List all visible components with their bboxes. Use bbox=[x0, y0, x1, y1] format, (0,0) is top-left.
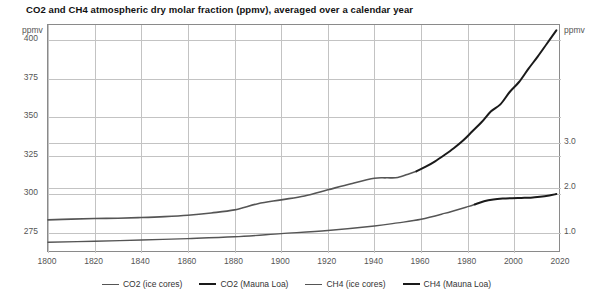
series-line-0 bbox=[48, 171, 416, 220]
right-tick-1.0: 1.0 bbox=[564, 226, 593, 236]
data-series-layer bbox=[48, 25, 561, 253]
legend-swatch-icon bbox=[403, 283, 420, 285]
legend-item-3[interactable]: CH4 (Mauna Loa) bbox=[403, 279, 492, 289]
legend-item-2[interactable]: CH4 (ice cores) bbox=[305, 279, 385, 289]
series-line-2 bbox=[48, 204, 475, 242]
series-line-1 bbox=[416, 30, 556, 171]
plot-area bbox=[47, 24, 560, 252]
chart-figure: CO2 and CH4 atmospheric dry molar fracti… bbox=[0, 0, 593, 294]
left-tick-400: 400 bbox=[4, 33, 38, 43]
left-tick-275: 275 bbox=[4, 226, 38, 236]
left-tick-375: 375 bbox=[4, 72, 38, 82]
x-tick-1920: 1920 bbox=[307, 256, 347, 266]
x-tick-2000: 2000 bbox=[493, 256, 533, 266]
chart-title: CO2 and CH4 atmospheric dry molar fracti… bbox=[26, 4, 413, 15]
x-tick-1880: 1880 bbox=[214, 256, 254, 266]
x-tick-1820: 1820 bbox=[74, 256, 114, 266]
legend-label: CH4 (ice cores) bbox=[326, 279, 385, 289]
left-tick-325: 325 bbox=[4, 149, 38, 159]
x-tick-1980: 1980 bbox=[447, 256, 487, 266]
left-tick-350: 350 bbox=[4, 110, 38, 120]
x-tick-1940: 1940 bbox=[353, 256, 393, 266]
legend-item-0[interactable]: CO2 (ice cores) bbox=[102, 279, 183, 289]
x-tick-1900: 1900 bbox=[260, 256, 300, 266]
legend-label: CH4 (Mauna Loa) bbox=[424, 279, 492, 289]
x-tick-1960: 1960 bbox=[400, 256, 440, 266]
right-axis-unit-label: ppmv bbox=[564, 25, 585, 35]
x-tick-1860: 1860 bbox=[167, 256, 207, 266]
left-tick-300: 300 bbox=[4, 187, 38, 197]
right-tick-3.0: 3.0 bbox=[564, 136, 593, 146]
right-tick-2.0: 2.0 bbox=[564, 181, 593, 191]
legend-swatch-icon bbox=[102, 284, 119, 285]
x-tick-2020: 2020 bbox=[540, 256, 580, 266]
legend-swatch-icon bbox=[199, 283, 216, 285]
x-tick-1840: 1840 bbox=[120, 256, 160, 266]
legend-label: CO2 (ice cores) bbox=[123, 279, 183, 289]
legend-label: CO2 (Mauna Loa) bbox=[220, 279, 288, 289]
chart-legend: CO2 (ice cores)CO2 (Mauna Loa)CH4 (ice c… bbox=[0, 277, 593, 291]
legend-swatch-icon bbox=[305, 284, 322, 285]
x-tick-1800: 1800 bbox=[27, 256, 67, 266]
legend-item-1[interactable]: CO2 (Mauna Loa) bbox=[199, 279, 288, 289]
series-line-3 bbox=[475, 194, 557, 204]
